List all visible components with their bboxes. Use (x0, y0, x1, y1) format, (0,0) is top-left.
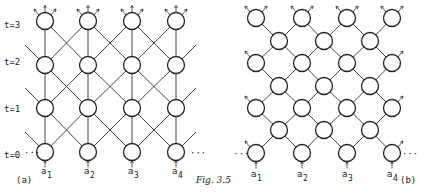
output-arrow-icon (131, 6, 134, 13)
output-arrow-icon (353, 6, 358, 12)
lattice-node (168, 57, 185, 74)
lattice-node (316, 78, 333, 95)
lattice-node (294, 100, 311, 117)
output-arrow-icon (398, 96, 403, 102)
lattice-node (294, 55, 311, 72)
lattice-node (271, 78, 288, 95)
time-label-t2: t=2 (4, 57, 20, 67)
time-label-t3: t=3 (4, 20, 20, 30)
input-label-b1: a1 (251, 169, 262, 183)
input-arrow-icon (346, 162, 349, 169)
output-arrow-icon (398, 51, 403, 57)
lattice-node (80, 100, 97, 117)
output-arrow-icon (121, 9, 126, 15)
lattice-node (339, 10, 356, 27)
output-arrow-icon (182, 9, 187, 15)
lattice-node (124, 13, 141, 30)
output-arrow-icon (245, 51, 250, 57)
output-arrow-icon (77, 9, 82, 15)
lattice-node (248, 10, 265, 27)
lattice-node (384, 55, 401, 72)
lattice-node (316, 33, 333, 50)
lattice-node (37, 13, 54, 30)
ellipsis-right-a: ··· (190, 148, 206, 158)
output-arrow-icon (87, 6, 90, 13)
input-arrow-icon (301, 162, 304, 169)
output-arrow-icon (34, 9, 39, 15)
lattice-node (80, 144, 97, 161)
input-arrow-icon (255, 162, 258, 169)
lattice-node (124, 100, 141, 117)
panel-a-input-labels: a1a2a3a4 (41, 166, 183, 180)
lattice-node (168, 13, 185, 30)
lattice-node (316, 122, 333, 139)
lattice-node (384, 100, 401, 117)
lattice-node (294, 145, 311, 162)
panel-a-label: (a) (16, 175, 32, 185)
lattice-node (339, 55, 356, 72)
lattice-node (37, 57, 54, 74)
output-arrow-icon (262, 6, 267, 12)
time-label-t1: t=1 (4, 104, 20, 114)
time-label-t0: t=0 (4, 150, 20, 160)
lattice-node (37, 100, 54, 117)
lattice-node (80, 57, 97, 74)
lattice-node (339, 145, 356, 162)
lattice-node (362, 78, 379, 95)
lattice-node (248, 145, 265, 162)
panel-a-lattice: t=0 t=1 t=2 t=3 ··· ··· a1a2a3a4 (a) (4, 6, 206, 186)
lattice-node (168, 100, 185, 117)
figure-canvas: t=0 t=1 t=2 t=3 ··· ··· a1a2a3a4 (a) Fig… (0, 0, 424, 192)
input-label-b3: a3 (342, 169, 353, 183)
ellipsis-left-a: ··· (24, 148, 40, 158)
input-label-b4: a4 (387, 169, 398, 183)
output-arrow-icon (175, 6, 178, 13)
lattice-node (80, 13, 97, 30)
lattice-node (124, 144, 141, 161)
lattice-node (294, 10, 311, 27)
output-arrow-icon (165, 9, 170, 15)
lattice-node (248, 100, 265, 117)
lattice-node (271, 33, 288, 50)
output-arrow-icon (398, 6, 403, 12)
output-arrow-icon (245, 96, 250, 102)
figure-caption: Fig. 3.5 (195, 175, 231, 185)
output-arrow-icon (44, 6, 47, 13)
panel-b-input-labels: a1a2a3a4 (251, 169, 398, 183)
output-arrow-icon (245, 6, 250, 12)
output-arrow-icon (245, 141, 250, 147)
ellipsis-right-b: ··· (402, 149, 418, 159)
input-label-b2: a2 (297, 169, 308, 183)
output-arrow-icon (308, 6, 313, 12)
output-arrow-icon (336, 6, 341, 12)
input-arrow-icon (391, 162, 394, 169)
output-arrow-icon (381, 6, 386, 12)
input-label-a3: a3 (128, 166, 139, 180)
lattice-node (384, 10, 401, 27)
lattice-node (168, 144, 185, 161)
lattice-node (362, 122, 379, 139)
output-arrow-icon (291, 6, 296, 12)
input-label-a4: a4 (172, 166, 183, 180)
input-label-a1: a1 (41, 166, 52, 180)
lattice-node (124, 57, 141, 74)
input-label-a2: a2 (84, 166, 95, 180)
output-arrow-icon (94, 9, 99, 15)
panel-a-edges (25, 21, 196, 152)
lattice-node (271, 122, 288, 139)
output-arrow-icon (51, 9, 56, 15)
ellipsis-left-b: ··· (233, 149, 249, 159)
lattice-node (339, 100, 356, 117)
lattice-node (248, 55, 265, 72)
lattice-node (384, 145, 401, 162)
lattice-node (362, 33, 379, 50)
output-arrow-icon (398, 141, 403, 147)
panel-b-lattice: ··· ··· a1a2a3a4 (b) (233, 6, 418, 185)
output-arrow-icon (138, 9, 143, 15)
panel-b-label: (b) (400, 175, 416, 185)
